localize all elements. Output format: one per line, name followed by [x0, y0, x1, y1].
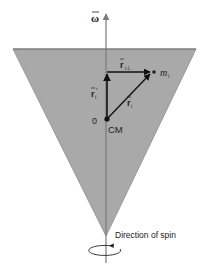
- svg-text:ω: ω: [91, 12, 99, 24]
- spin-direction-icon: [89, 244, 121, 256]
- origin-label: 0: [92, 116, 97, 126]
- mass-point: [152, 70, 156, 74]
- svg-text:i: i: [168, 73, 169, 79]
- omega-label: ω: [91, 12, 99, 24]
- cm-origin-dot: [104, 116, 109, 121]
- spinning-top-diagram: ω r i⊥ r i ′ r i m i 0 CM Direction of s…: [0, 0, 209, 271]
- spin-direction-label: Direction of spin: [115, 230, 176, 240]
- svg-text:i: i: [131, 103, 132, 109]
- cm-label: CM: [108, 124, 123, 135]
- svg-text:i: i: [95, 94, 96, 100]
- svg-text:m: m: [160, 67, 167, 78]
- svg-text:r: r: [120, 60, 124, 70]
- svg-text:i⊥: i⊥: [125, 65, 131, 71]
